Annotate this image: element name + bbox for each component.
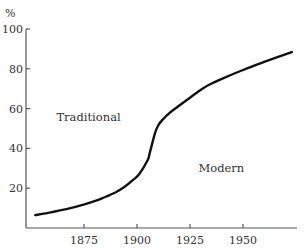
y-tick-label: 60: [9, 103, 23, 116]
y-tick-label: 40: [9, 142, 23, 155]
annotations: TraditionalModern: [56, 110, 244, 176]
y-axis-unit-label: %: [5, 7, 15, 20]
chart: 204060801001875190019251950 % Traditiona…: [0, 0, 304, 249]
x-tick-label: 1925: [176, 234, 204, 247]
axes: [26, 29, 297, 228]
y-tick-label: 80: [9, 63, 23, 76]
y-tick-label: 100: [2, 23, 23, 36]
x-tick-label: 1950: [229, 234, 257, 247]
x-tick-label: 1875: [70, 234, 98, 247]
y-tick-label: 20: [9, 182, 23, 195]
annotation-modern: Modern: [198, 161, 244, 175]
annotation-traditional: Traditional: [56, 110, 121, 124]
x-tick-label: 1900: [123, 234, 151, 247]
series-line: [35, 52, 292, 215]
series: [35, 52, 292, 215]
